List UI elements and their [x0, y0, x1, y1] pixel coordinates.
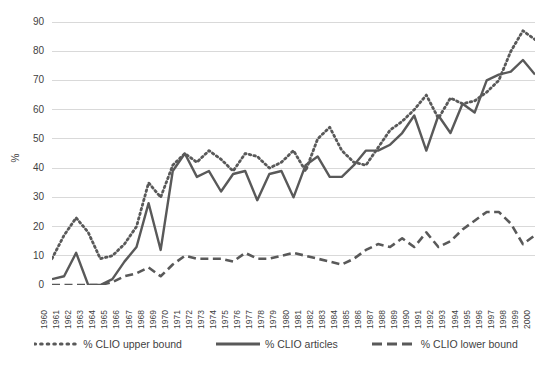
y-axis-tick-60: 60: [14, 105, 44, 115]
x-axis-tick-1980: 1980: [282, 310, 291, 329]
series-line-0: [52, 31, 535, 259]
legend-swatch-dashed: [372, 339, 416, 349]
x-axis-tick-1969: 1969: [149, 310, 158, 329]
x-axis-tick-1977: 1977: [245, 310, 254, 329]
x-axis-tick-1965: 1965: [100, 310, 109, 329]
chart-container: % 0102030405060708090 196019611962196319…: [0, 0, 552, 373]
x-axis-tick-labels: 1960196119621963196419651966196719681969…: [52, 287, 535, 329]
legend-swatch-solid: [216, 339, 260, 349]
x-axis-tick-1974: 1974: [209, 310, 218, 329]
legend-item-2[interactable]: % CLIO lower bound: [372, 338, 518, 350]
chart-svg: [52, 22, 535, 285]
x-axis-tick-1976: 1976: [233, 310, 242, 329]
x-axis-tick-1989: 1989: [390, 310, 399, 329]
legend-swatch-dotted: [34, 339, 78, 349]
x-axis-tick-1967: 1967: [125, 310, 134, 329]
y-axis-tick-70: 70: [14, 75, 44, 85]
x-axis-tick-1984: 1984: [330, 310, 339, 329]
x-axis-tick-1971: 1971: [173, 310, 182, 329]
x-axis-tick-1991: 1991: [414, 310, 423, 329]
legend-item-0[interactable]: % CLIO upper bound: [34, 338, 182, 350]
x-axis-tick-1968: 1968: [137, 310, 146, 329]
x-axis-tick-1961: 1961: [52, 310, 61, 329]
y-axis-tick-20: 20: [14, 222, 44, 232]
x-axis-tick-1990: 1990: [402, 310, 411, 329]
x-axis-tick-1987: 1987: [366, 310, 375, 329]
x-axis-tick-1982: 1982: [306, 310, 315, 329]
x-axis-tick-1995: 1995: [463, 310, 472, 329]
x-axis-tick-1994: 1994: [451, 310, 460, 329]
x-axis-tick-1999: 1999: [511, 310, 520, 329]
x-axis-tick-1960: 1960: [40, 310, 49, 329]
x-axis-tick-1986: 1986: [354, 310, 363, 329]
x-axis-tick-2000: 2000: [523, 310, 532, 329]
legend-item-1[interactable]: % CLIO articles: [216, 338, 338, 350]
y-axis-tick-50: 50: [14, 134, 44, 144]
y-axis-tick-90: 90: [14, 17, 44, 27]
y-axis-tick-80: 80: [14, 46, 44, 56]
x-axis-tick-1992: 1992: [426, 310, 435, 329]
x-axis-tick-1993: 1993: [438, 310, 447, 329]
x-axis-tick-1964: 1964: [88, 310, 97, 329]
y-axis-tick-30: 30: [14, 192, 44, 202]
x-axis-tick-1981: 1981: [294, 310, 303, 329]
x-axis-tick-1983: 1983: [318, 310, 327, 329]
x-axis-tick-1972: 1972: [185, 310, 194, 329]
x-axis-tick-1998: 1998: [499, 310, 508, 329]
legend-label-0: % CLIO upper bound: [83, 338, 182, 350]
x-axis-tick-1963: 1963: [76, 310, 85, 329]
y-axis-tick-40: 40: [14, 163, 44, 173]
y-axis-tick-10: 10: [14, 251, 44, 261]
x-axis-tick-1979: 1979: [269, 310, 278, 329]
chart-legend: % CLIO upper bound% CLIO articles% CLIO …: [0, 338, 552, 350]
series-line-1: [52, 60, 535, 285]
x-axis-tick-1985: 1985: [342, 310, 351, 329]
x-axis-tick-1973: 1973: [197, 310, 206, 329]
x-axis-tick-1966: 1966: [112, 310, 121, 329]
x-axis-tick-1978: 1978: [257, 310, 266, 329]
legend-label-1: % CLIO articles: [265, 338, 338, 350]
x-axis-tick-1962: 1962: [64, 310, 73, 329]
legend-label-2: % CLIO lower bound: [421, 338, 518, 350]
x-axis-tick-1996: 1996: [475, 310, 484, 329]
x-axis-tick-1988: 1988: [378, 310, 387, 329]
x-axis-tick-1970: 1970: [161, 310, 170, 329]
x-axis-tick-1997: 1997: [487, 310, 496, 329]
x-axis-tick-1975: 1975: [221, 310, 230, 329]
series-line-2: [52, 212, 535, 285]
y-axis-tick-0: 0: [14, 280, 44, 290]
plot-area: [52, 22, 535, 285]
